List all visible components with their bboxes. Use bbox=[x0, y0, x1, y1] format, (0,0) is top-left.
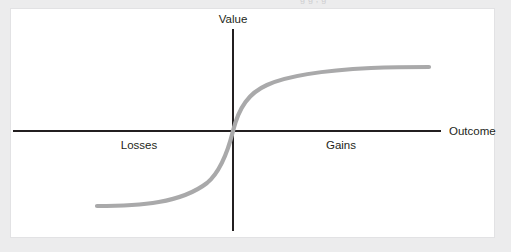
x-axis-title: Outcome bbox=[449, 125, 496, 137]
plot-area: Value Outcome Losses Gains bbox=[11, 9, 496, 239]
region-label-gains: Gains bbox=[326, 139, 356, 151]
clipped-header-text: g g , g bbox=[0, 0, 511, 7]
figure-panel: Value Outcome Losses Gains bbox=[10, 8, 495, 238]
region-label-losses: Losses bbox=[121, 139, 158, 151]
y-axis-title: Value bbox=[219, 13, 248, 25]
value-function-curve bbox=[97, 67, 429, 206]
